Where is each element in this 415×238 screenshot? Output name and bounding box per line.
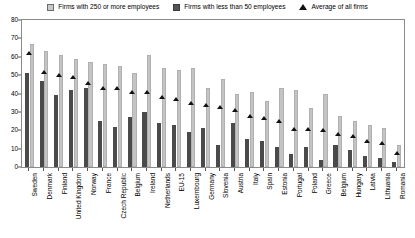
x-axis-tick-label: Portugal — [296, 173, 303, 197]
y-axis-tick-label: 10 — [11, 145, 18, 151]
x-axis-tick-mark — [131, 168, 132, 171]
average-marker — [129, 90, 135, 94]
bar-large-firms — [88, 62, 92, 167]
average-marker — [159, 95, 165, 99]
legend-label-average: Average of all firms — [311, 3, 367, 11]
x-axis-tick-mark — [308, 168, 309, 171]
bar-group — [389, 20, 404, 167]
bar-small-firms — [201, 128, 205, 167]
bar-group — [125, 20, 140, 167]
bar-small-firms — [142, 112, 146, 167]
bar-small-firms — [172, 125, 176, 167]
bar-large-firms — [103, 64, 107, 167]
x-axis-tick-mark — [205, 168, 206, 171]
bar-large-firms — [59, 55, 63, 167]
bar-large-firms — [118, 66, 122, 167]
bar-large-firms — [368, 125, 372, 167]
x-axis-tick-label: Hungary — [355, 173, 362, 198]
bar-group — [154, 20, 169, 167]
y-axis-tick-label: 60 — [11, 54, 18, 60]
x-axis-tick-mark — [190, 168, 191, 171]
bar-small-firms — [40, 81, 44, 167]
bar-small-firms — [319, 160, 323, 167]
x-axis-tick-label: Lithuania — [384, 173, 391, 199]
average-marker — [291, 127, 297, 131]
bar-group — [95, 20, 110, 167]
x-axis-tick-mark — [102, 168, 103, 171]
x-axis-tick-mark — [28, 168, 29, 171]
bar-large-firms — [191, 68, 195, 167]
x-axis-tick-label: Latvia — [369, 173, 376, 190]
average-marker — [364, 139, 370, 143]
bar-small-firms — [392, 162, 396, 168]
x-axis-tick-mark — [352, 168, 353, 171]
legend-swatch-small-firms-icon — [173, 4, 180, 11]
bar-small-firms — [333, 145, 337, 167]
x-axis-tick-mark — [278, 168, 279, 171]
bar-group — [184, 20, 199, 167]
x-axis-tick-mark — [87, 168, 88, 171]
bar-large-firms — [147, 55, 151, 167]
bar-group — [345, 20, 360, 167]
bar-small-firms — [187, 132, 191, 167]
x-axis-tick-label: Sweden — [31, 173, 38, 197]
x-axis-tick-label: Greece — [325, 173, 332, 194]
bar-large-firms — [382, 128, 386, 167]
bar-group — [81, 20, 96, 167]
bar-large-firms — [206, 88, 210, 167]
bar-small-firms — [98, 121, 102, 167]
x-axis-tick-mark — [117, 168, 118, 171]
bar-small-firms — [128, 117, 132, 167]
x-axis-tick-mark — [263, 168, 264, 171]
x-axis-tick-mark — [322, 168, 323, 171]
bar-large-firms — [30, 44, 34, 167]
y-axis-tick-label: 70 — [11, 35, 18, 41]
bar-group — [213, 20, 228, 167]
bar-small-firms — [260, 141, 264, 167]
bar-group — [257, 20, 272, 167]
average-marker — [85, 81, 91, 85]
bar-small-firms — [289, 154, 293, 167]
x-axis-tick-mark — [43, 168, 44, 171]
bar-small-firms — [69, 90, 73, 167]
chart-container: Firms with 250 or more employees Firms w… — [0, 0, 415, 238]
x-axis-tick-label: Poland — [311, 173, 318, 193]
x-axis-tick-label: EU-15 — [178, 173, 185, 191]
average-marker — [26, 51, 32, 55]
average-marker — [261, 116, 267, 120]
average-marker — [394, 151, 400, 155]
x-axis: SwedenDenmarkFinlandUnited KingdomNorway… — [21, 168, 405, 238]
average-marker — [379, 141, 385, 145]
x-axis-tick-label: Germany — [208, 173, 215, 200]
y-axis-tick-label: 30 — [11, 109, 18, 115]
y-axis: 01020304050607080 — [0, 19, 21, 169]
x-axis-tick-label: Norway — [90, 173, 97, 195]
bar-large-firms — [44, 51, 48, 167]
bar-small-firms — [157, 123, 161, 167]
bar-large-firms — [279, 88, 283, 167]
legend-item-large-firms: Firms with 250 or more employees — [47, 3, 159, 11]
bar-small-firms — [378, 158, 382, 167]
bar-group — [66, 20, 81, 167]
x-axis-tick-label: Ireland — [149, 173, 156, 193]
x-axis-tick-label: Belgium — [340, 173, 347, 196]
x-axis-tick-label: Belgium — [134, 173, 141, 196]
average-marker — [350, 134, 356, 138]
x-axis-tick-mark — [366, 168, 367, 171]
average-marker — [188, 101, 194, 105]
y-axis-tick-label: 40 — [11, 90, 18, 96]
x-axis-tick-label: Austria — [237, 173, 244, 193]
bar-group — [228, 20, 243, 167]
average-marker — [335, 132, 341, 136]
bar-large-firms — [162, 68, 166, 167]
bar-large-firms — [250, 92, 254, 167]
average-marker — [114, 86, 120, 90]
average-marker — [217, 105, 223, 109]
bar-small-firms — [25, 73, 29, 167]
bar-large-firms — [353, 121, 357, 167]
x-axis-tick-label: United Kingdom — [75, 173, 82, 219]
x-axis-tick-mark — [396, 168, 397, 171]
x-axis-tick-label: Slovenia — [222, 173, 229, 198]
bar-small-firms — [84, 88, 88, 167]
bar-group — [331, 20, 346, 167]
